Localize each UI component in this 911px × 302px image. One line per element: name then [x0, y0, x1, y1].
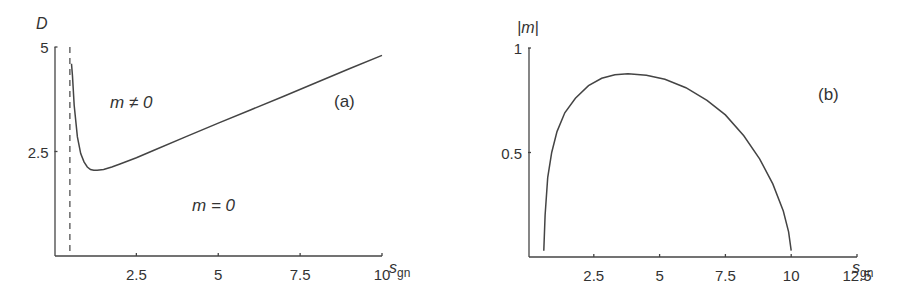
x-tick-label: 7.5: [290, 266, 311, 283]
panel-label-b: (b): [818, 85, 839, 104]
chart-b-curve: [544, 74, 791, 251]
annotation-m-zero: m = 0: [192, 196, 236, 215]
chart-b-x-ticks: 2.557.51012.5: [583, 254, 871, 284]
y-tick-label: 2.5: [28, 144, 49, 161]
x-tick-label: 10: [783, 267, 800, 284]
chart-a-curve: [72, 55, 383, 170]
chart-a-y-ticks: 2.55: [28, 39, 58, 161]
chart-a-x-label: sgn: [389, 259, 410, 280]
x-tick-label: 2.5: [583, 267, 604, 284]
annotation-m-nonzero: m ≠ 0: [110, 93, 153, 112]
chart-b-y-ticks: 0.51: [501, 40, 531, 162]
chart-b-y-label: |m|: [517, 19, 539, 36]
panel-label-a: (a): [334, 92, 355, 111]
figure: 2.557.510 2.55 D sgn m ≠ 0 m = 0 (a) 2.5…: [0, 0, 911, 302]
x-tick-label: 2.5: [126, 266, 147, 283]
x-tick-label: 7.5: [715, 267, 736, 284]
y-tick-label: 0.5: [501, 145, 522, 162]
x-tick-label: 5: [655, 267, 663, 284]
chart-a-y-label: D: [36, 15, 48, 32]
x-tick-label: 10: [374, 266, 391, 283]
chart-a: 2.557.510 2.55 D sgn m ≠ 0 m = 0 (a): [28, 15, 411, 283]
y-tick-label: 1: [514, 40, 522, 57]
chart-a-x-ticks: 2.557.510: [126, 253, 390, 283]
x-tick-label: 5: [214, 266, 222, 283]
chart-b: 2.557.51012.5 0.51 |m| sgn (b): [501, 19, 873, 284]
y-tick-label: 5: [40, 39, 48, 56]
